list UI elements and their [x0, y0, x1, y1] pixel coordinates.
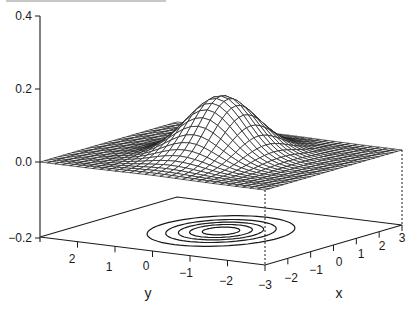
floor-plane: [40, 197, 402, 271]
wireframe-mesh: [40, 96, 402, 190]
x-tick-minus-2: −2: [284, 271, 298, 285]
x-axis: −3 −2 −1 0 1 2 3 x: [258, 231, 406, 301]
z-tick-0.4: 0.4: [15, 9, 32, 23]
contour-lines: [147, 216, 295, 247]
z-tick-0.0: 0.0: [15, 155, 32, 169]
y-tick-1: 1: [106, 260, 113, 274]
x-tick-minus-1: −1: [309, 263, 323, 277]
x-tick-0: 0: [336, 255, 343, 269]
z-tick-0.2: 0.2: [15, 82, 32, 96]
x-tick-1: 1: [358, 247, 365, 261]
y-tick-2: 2: [69, 252, 76, 266]
x-tick-3: 3: [399, 231, 406, 245]
x-tick-2: 2: [379, 239, 386, 253]
y-tick-0: 0: [143, 259, 150, 273]
y-axis-label: y: [145, 285, 152, 301]
x-axis-label: x: [336, 285, 343, 301]
y-tick-minus-1: −1: [179, 266, 193, 280]
z-tick-minus-0.2: −0.2: [8, 231, 32, 245]
z-axis: 0.4 0.2 0.0 −0.2: [8, 9, 40, 245]
surface-plot: 0.4 0.2 0.0 −0.2 2 1 0 −1 −2 y −3 −2 −1 …: [0, 0, 417, 316]
x-tick-minus-3: −3: [258, 278, 272, 292]
y-tick-minus-2: −2: [219, 274, 233, 288]
y-axis: 2 1 0 −1 −2 y: [69, 252, 234, 301]
